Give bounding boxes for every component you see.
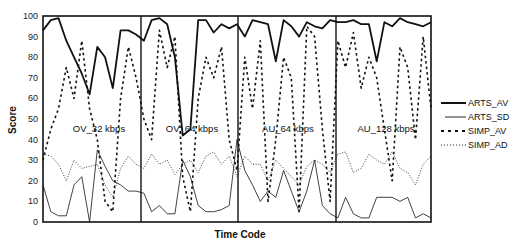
legend-label: SIMP_AD — [468, 140, 508, 150]
segment-label-ov64: OV_64 kbps — [166, 123, 219, 134]
legend-item-arts-sd: ARTS_SD — [445, 112, 510, 122]
y-tick: 80 — [28, 52, 38, 62]
series-layer — [43, 18, 431, 222]
y-axis-ticks: 100 90 80 70 60 50 40 30 20 10 0 — [23, 11, 38, 227]
legend: ARTS_AV ARTS_SD SIMP_AV SIMP_AD — [441, 98, 510, 150]
y-tick: 10 — [28, 196, 38, 206]
legend-label: ARTS_AV — [468, 98, 508, 108]
segment-label-au64: AU_64 kbps — [262, 123, 314, 134]
legend-label: ARTS_SD — [468, 112, 510, 122]
series-line-arts-av — [43, 18, 431, 135]
y-tick: 50 — [28, 114, 38, 124]
legend-item-arts-av: ARTS_AV — [441, 98, 508, 108]
y-tick: 0 — [33, 217, 38, 227]
y-tick: 90 — [28, 32, 38, 42]
y-tick: 40 — [28, 135, 38, 145]
y-tick: 30 — [28, 155, 38, 165]
legend-item-simp-av: SIMP_AV — [441, 126, 506, 136]
legend-item-simp-ad: SIMP_AD — [441, 140, 508, 150]
chart-canvas: Score 100 90 80 70 60 50 40 30 20 10 0 O… — [0, 0, 517, 244]
series-line-simp-av — [43, 26, 431, 211]
segment-label-ov32: OV_32 kbps — [73, 123, 126, 134]
y-tick: 60 — [28, 93, 38, 103]
legend-label: SIMP_AV — [468, 126, 506, 136]
y-tick: 20 — [28, 176, 38, 186]
x-axis-title: Time Code — [215, 229, 266, 240]
series-line-arts-sd — [43, 140, 431, 222]
y-axis-title: Score — [7, 106, 18, 134]
segment-label-au128: AU_128 kbps — [357, 123, 414, 134]
y-tick: 100 — [23, 11, 38, 21]
y-tick: 70 — [28, 73, 38, 83]
